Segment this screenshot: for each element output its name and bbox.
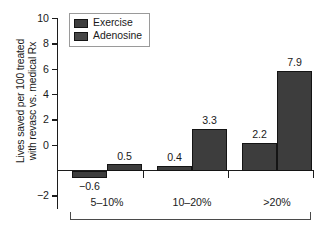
bar-value-adenosine-10-20: 3.3 (182, 114, 237, 126)
y-tick-mark-0 (52, 145, 57, 146)
bar-exercise-gt-20 (242, 143, 277, 171)
y-tick-mark-4 (52, 94, 57, 95)
y-tick-label-6: 6 (27, 63, 49, 75)
y-tick-label-4: 4 (27, 88, 49, 100)
y-tick-mark-2 (52, 119, 57, 120)
legend-item-exercise: Exercise (74, 17, 142, 30)
x-category-label-gt-20: >20% (242, 196, 312, 208)
y-tick-label-2: 2 (27, 113, 49, 125)
bar-exercise-10-20 (157, 166, 192, 171)
x-tick-mark-1 (143, 171, 144, 178)
bar-adenosine-10-20 (192, 129, 227, 171)
bar-value-exercise-5-10: −0.6 (62, 180, 117, 192)
bar-exercise-5-10 (72, 171, 107, 179)
y-tick-label-8: 8 (27, 37, 49, 49)
legend-swatch-icon-adenosine (74, 32, 88, 41)
y-tick-mark-6 (52, 69, 57, 70)
bar-adenosine-5-10 (107, 164, 142, 170)
legend-swatch-icon-exercise (74, 19, 88, 28)
bar-chart: Lives saved per 100 treated with revasc … (0, 0, 325, 225)
y-tick-label-0: 0 (27, 139, 49, 151)
legend: Exercise Adenosine (69, 13, 150, 47)
legend-item-adenosine: Adenosine (74, 30, 142, 43)
bar-adenosine-gt-20 (277, 71, 312, 171)
legend-label-exercise: Exercise (93, 18, 133, 28)
y-tick-label-minus-2: −2 (27, 189, 49, 201)
category-group-bracket (70, 212, 311, 220)
x-category-label-10-20: 10–20% (157, 196, 227, 208)
y-tick-mark-minus-2 (52, 195, 57, 196)
bar-value-adenosine-gt-20: 7.9 (267, 56, 322, 68)
legend-label-adenosine: Adenosine (93, 31, 142, 41)
y-axis-line (57, 18, 58, 209)
y-axis-title-line-1: Lives saved per 100 treated (15, 39, 27, 163)
y-tick-mark-8 (52, 43, 57, 44)
x-tick-mark-2 (228, 171, 229, 178)
x-tick-mark-3 (313, 171, 314, 178)
bar-value-adenosine-5-10: 0.5 (97, 150, 152, 162)
y-tick-mark-10 (52, 18, 57, 19)
y-tick-label-10: 10 (27, 12, 49, 24)
x-category-label-5-10: 5–10% (72, 196, 142, 208)
